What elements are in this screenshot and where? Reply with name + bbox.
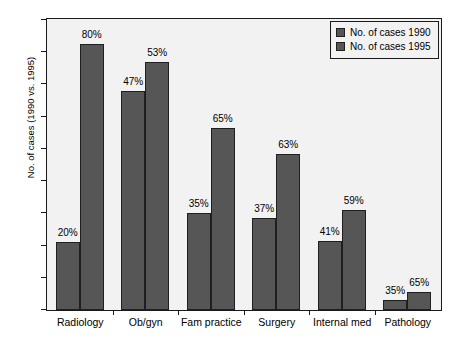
- x-axis-category-label: Surgery: [258, 316, 295, 328]
- bar: [187, 213, 211, 310]
- x-axis-tick: [178, 310, 179, 315]
- x-axis-category-label: Pathology: [384, 316, 431, 328]
- bar-value-label: 41%: [320, 226, 340, 237]
- x-axis-tick: [375, 310, 376, 315]
- x-axis-tick: [113, 310, 114, 315]
- bar: [211, 128, 235, 310]
- y-axis-tick: [41, 83, 47, 84]
- bar-value-label: 59%: [344, 195, 364, 206]
- bar: [252, 218, 276, 310]
- legend-swatch-1995-icon: [336, 42, 345, 51]
- bar: [80, 44, 104, 310]
- x-axis-tick: [309, 310, 310, 315]
- chart-legend: No. of cases 1990 No. of cases 1995: [330, 21, 439, 59]
- bar-value-label: 35%: [189, 198, 209, 209]
- plot-area: 02040608010012014016018020%80%47%53%35%6…: [46, 18, 442, 311]
- x-axis-category-label: Fam practice: [181, 316, 242, 328]
- y-axis-tick: [41, 148, 47, 149]
- bar: [121, 91, 145, 310]
- x-axis-category-label: Ob/gyn: [129, 316, 163, 328]
- y-axis-tick: [41, 116, 47, 117]
- x-axis-category-label: Internal med: [313, 316, 371, 328]
- bar: [383, 300, 407, 310]
- y-axis-tick: [41, 212, 47, 213]
- bar: [407, 292, 431, 310]
- bar-value-label: 47%: [123, 76, 143, 87]
- bar: [145, 62, 169, 310]
- bar-value-label: 37%: [254, 203, 274, 214]
- y-axis-tick: [41, 245, 47, 246]
- legend-item-1995: No. of cases 1995: [336, 40, 431, 53]
- y-axis-tick: [41, 51, 47, 52]
- legend-item-1990: No. of cases 1990: [336, 26, 431, 39]
- bar-chart: No. of cases (1990 vs. 1995) 02040608010…: [0, 0, 450, 343]
- y-axis-title: No. of cases (1990 vs. 1995): [25, 28, 36, 208]
- y-axis-tick: [41, 19, 47, 20]
- bar-value-label: 53%: [147, 47, 167, 58]
- y-axis-tick: [41, 309, 47, 310]
- bar: [276, 154, 300, 310]
- bar-value-label: 20%: [58, 227, 78, 238]
- bar-value-label: 80%: [82, 29, 102, 40]
- y-axis-tick: [41, 180, 47, 181]
- legend-label-1990: No. of cases 1990: [350, 27, 431, 38]
- bar-value-label: 35%: [385, 285, 405, 296]
- bar: [318, 241, 342, 310]
- x-axis-category-label: Radiology: [57, 316, 104, 328]
- x-axis-tick: [244, 310, 245, 315]
- bar: [56, 242, 80, 310]
- bar-value-label: 65%: [409, 277, 429, 288]
- bar-value-label: 63%: [278, 139, 298, 150]
- y-axis-tick: [41, 277, 47, 278]
- plot-inner: 02040608010012014016018020%80%47%53%35%6…: [47, 19, 441, 310]
- bar: [342, 210, 366, 310]
- legend-label-1995: No. of cases 1995: [350, 41, 431, 52]
- bar-value-label: 65%: [213, 113, 233, 124]
- legend-swatch-1990-icon: [336, 28, 345, 37]
